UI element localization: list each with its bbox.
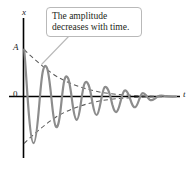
damped-oscillation-figure: The amplitude decreases with time. x t A…	[0, 0, 194, 169]
amplitude-callout: The amplitude decreases with time.	[46, 7, 142, 37]
origin-tick-label: 0	[13, 90, 18, 99]
x-axis-label: t	[183, 90, 186, 99]
callout-line-2: decreases with time.	[52, 22, 137, 33]
amplitude-tick-label: A	[13, 43, 19, 52]
callout-line-1: The amplitude	[52, 11, 137, 22]
callout-tail	[40, 34, 80, 66]
y-axis-label: x	[22, 8, 26, 17]
